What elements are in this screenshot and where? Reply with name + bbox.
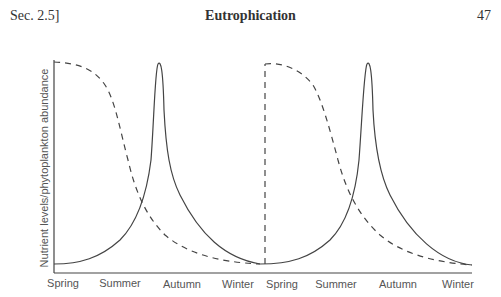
x-tick-label: Summer: [99, 277, 141, 289]
x-tick-label: Spring: [47, 277, 79, 289]
phytoplankton-curve-year1: [54, 63, 260, 264]
phytoplankton-curve-year2: [260, 63, 472, 265]
chart: Nutrient levels/phytoplankton abundance …: [0, 0, 501, 297]
nutrient-curve-year1: [54, 62, 260, 264]
nutrient-curve-year2: [265, 64, 472, 265]
x-tick-label: Summer: [315, 278, 357, 290]
x-tick-label: Spring: [266, 278, 298, 290]
x-tick-label: Winter: [442, 278, 474, 290]
x-tick-label: Autumn: [379, 278, 417, 290]
x-tick-label: Autumn: [163, 278, 201, 290]
y-axis-label: Nutrient levels/phytoplankton abundance: [38, 69, 50, 268]
x-tick-label: Winter: [222, 278, 254, 290]
